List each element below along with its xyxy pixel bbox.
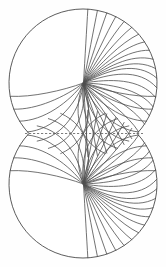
figure-container bbox=[0, 0, 166, 267]
two-lobe-field-diagram bbox=[0, 0, 166, 267]
